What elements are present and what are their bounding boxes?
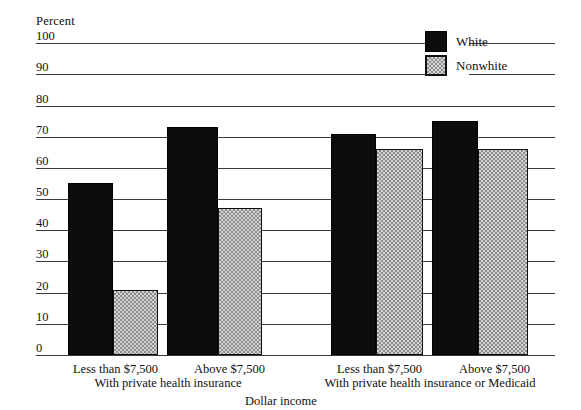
group-label-private-insurance: With private health insurance (28, 376, 308, 391)
y-axis-title: Percent (36, 14, 75, 29)
legend-swatch-white-icon (425, 31, 447, 52)
y-tick-100: 100 (36, 30, 55, 42)
legend-item-white: White (425, 31, 488, 52)
y-tick-60: 60 (36, 155, 49, 167)
gridline-0-baseline (36, 355, 555, 356)
bar-nonwhite-group1-less-than-7500 (113, 290, 158, 356)
legend-item-nonwhite: Nonwhite (425, 55, 507, 76)
category-label-group2-above-7500: Above $7,500 (422, 362, 567, 377)
legend-label-nonwhite: Nonwhite (456, 58, 507, 74)
x-axis-title: Dollar income (245, 394, 317, 409)
bar-white-group2-above-7500 (432, 121, 478, 355)
y-tick-30: 30 (36, 248, 49, 260)
y-tick-70: 70 (36, 124, 49, 136)
bar-nonwhite-group2-less-than-7500 (376, 149, 423, 355)
bar-white-group2-less-than-7500 (331, 134, 376, 356)
gridline-100 (36, 43, 438, 44)
bar-nonwhite-group2-above-7500 (478, 149, 528, 355)
bar-white-group1-above-7500 (167, 127, 218, 355)
category-label-group1-above-7500: Above $7,500 (157, 362, 302, 377)
bar-white-group1-less-than-7500 (68, 183, 113, 355)
legend-label-white: White (456, 34, 488, 50)
bar-nonwhite-group1-above-7500 (218, 208, 262, 355)
y-tick-10: 10 (36, 311, 49, 323)
gridline-80 (36, 106, 555, 107)
y-tick-50: 50 (36, 186, 49, 198)
y-tick-90: 90 (36, 61, 49, 73)
y-tick-80: 80 (36, 93, 49, 105)
gridline-90 (36, 74, 438, 75)
group-label-private-insurance-medicaid: With private health insurance or Medicai… (290, 376, 570, 391)
y-tick-20: 20 (36, 280, 49, 292)
bar-chart: Percent 100 90 80 70 60 50 40 30 20 10 0… (0, 0, 581, 410)
legend-swatch-nonwhite-icon (425, 55, 447, 76)
y-tick-40: 40 (36, 217, 49, 229)
y-tick-0: 0 (36, 342, 42, 354)
